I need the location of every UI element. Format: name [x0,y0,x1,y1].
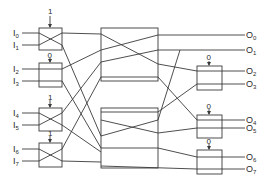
switching-network-diagram: I0 I1 I2 I3 I4 I5 I6 I7 1 0 [0,0,259,182]
output-label-6: O6 [246,152,257,163]
input-label-7: I7 [13,156,20,167]
middle-wires [101,34,158,148]
arrow-down-icon [48,24,52,28]
input-label-1: I1 [13,40,20,51]
left-interconnect [62,33,101,162]
output-label-1: O1 [246,45,257,56]
output-label-2: O2 [246,66,257,77]
arrow-down-icon [48,139,52,143]
input-switch-1: 1 [39,7,62,50]
control-bit: 1 [48,93,53,102]
arrow-down-icon [48,104,52,108]
middle-switch-lower [101,108,158,168]
arrow-down-icon [207,146,211,150]
input-label-0: I0 [13,28,20,39]
control-bit: 1 [48,7,53,16]
input-label-6: I6 [13,144,20,155]
input-switch-2: 0 [39,51,62,87]
input-switch-4: 1 [39,129,62,167]
input-switch-3: 1 [39,93,62,131]
output-switch-3: 0 [197,137,245,174]
output-label-7: O7 [246,164,257,175]
input-labels: I0 I1 I2 I3 I4 I5 I6 I7 [13,28,20,167]
output-label-0: O0 [246,30,257,41]
right-interconnect [101,35,245,169]
arrow-down-icon [207,111,211,115]
control-bit: 0 [207,102,212,111]
control-bit: 0 [48,51,53,60]
input-label-3: I3 [13,76,20,87]
input-leads [22,33,39,161]
input-label-5: I5 [13,120,20,131]
control-bit: 0 [207,53,212,62]
input-label-2: I2 [13,64,20,75]
output-label-3: O3 [246,79,257,90]
control-bit: 1 [48,129,53,138]
output-switch-1: 0 [197,53,245,90]
middle-switch-upper [101,28,158,81]
output-switch-2: 0 [197,102,245,138]
arrow-down-icon [207,62,211,66]
control-bit: 0 [207,137,212,146]
output-labels: O0 O1 O2 O3 O4 O5 O6 O7 [246,30,257,175]
input-label-4: I4 [13,108,20,119]
